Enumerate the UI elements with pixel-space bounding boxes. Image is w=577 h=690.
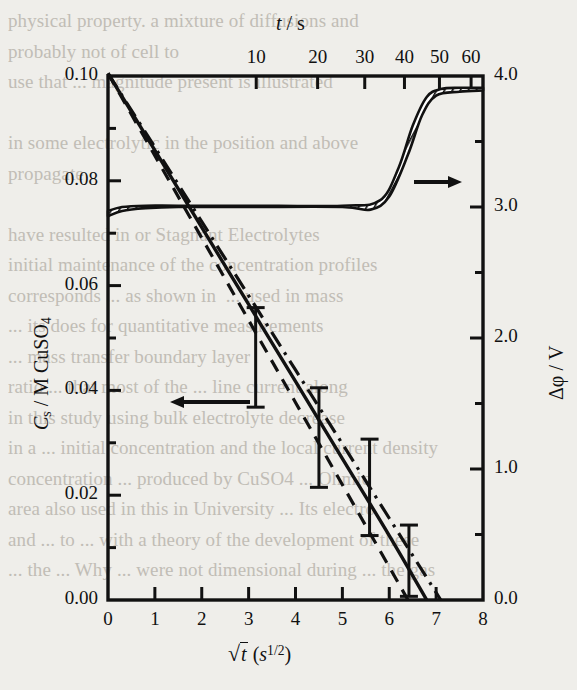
chart-canvas [0,0,577,690]
concentration-lines [108,73,441,600]
figure-container: t / s Cs / M CuSO4 Δφ / V √t (s1/2) 0123… [0,0,577,690]
plot-frame [108,76,483,600]
potential-hatched-band [108,88,483,216]
axis-pointer-arrows [170,176,462,408]
axis-ticks [108,76,483,600]
error-bars [247,308,418,597]
